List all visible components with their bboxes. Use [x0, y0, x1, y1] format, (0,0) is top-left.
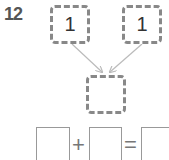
top-right-box: 1 [122, 5, 162, 44]
top-left-box: 1 [50, 5, 90, 44]
plus-sign: + [72, 134, 85, 156]
equation-left-box[interactable] [36, 127, 70, 160]
equation-result-box[interactable] [141, 127, 169, 160]
equation-right-box[interactable] [89, 127, 122, 160]
equals-sign: = [124, 134, 137, 156]
result-box[interactable] [86, 75, 126, 114]
